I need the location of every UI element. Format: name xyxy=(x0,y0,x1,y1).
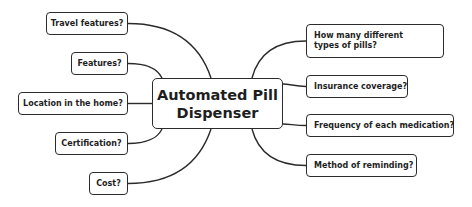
central-topic-line1: Automated Pill xyxy=(157,86,278,104)
branch-label: Method of reminding? xyxy=(314,161,413,171)
branch-label: Certification? xyxy=(61,139,121,149)
branch-label: How many different types of pills? xyxy=(314,31,426,51)
connector-frequency xyxy=(283,124,306,126)
branch-cost[interactable]: Cost? xyxy=(89,172,128,195)
mind-map: Automated Pill Dispenser Travel features… xyxy=(0,0,472,207)
branch-label: Travel features? xyxy=(51,19,124,29)
branch-label: Frequency of each medication? xyxy=(314,121,454,131)
branch-travel-features[interactable]: Travel features? xyxy=(46,12,128,35)
branch-label: Features? xyxy=(77,59,121,69)
branch-reminding-method[interactable]: Method of reminding? xyxy=(306,154,417,177)
branch-pill-types[interactable]: How many different types of pills? xyxy=(306,24,444,58)
branch-medication-frequency[interactable]: Frequency of each medication? xyxy=(306,114,454,137)
branch-certification[interactable]: Certification? xyxy=(55,132,128,155)
connector-insurance xyxy=(283,84,306,87)
central-topic[interactable]: Automated Pill Dispenser xyxy=(152,78,283,129)
branch-features[interactable]: Features? xyxy=(71,52,128,75)
branch-label: Location in the home? xyxy=(23,99,123,109)
connector-travel xyxy=(128,24,211,79)
connector-features xyxy=(128,64,162,79)
branch-label: Insurance coverage? xyxy=(314,82,407,92)
central-topic-line2: Dispenser xyxy=(157,104,278,122)
branch-label: Cost? xyxy=(96,179,121,189)
branch-insurance-coverage[interactable]: Insurance coverage? xyxy=(306,75,408,98)
connector-cost xyxy=(128,129,211,184)
connector-certification xyxy=(128,129,162,144)
connector-reminding xyxy=(252,129,306,166)
connector-pill-types xyxy=(252,41,306,78)
branch-location-in-home[interactable]: Location in the home? xyxy=(18,92,128,115)
